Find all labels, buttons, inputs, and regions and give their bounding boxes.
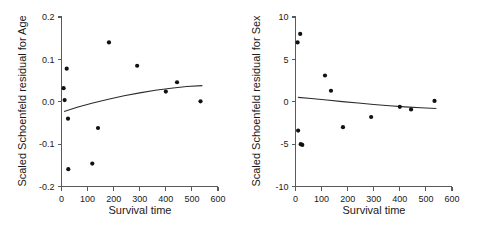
data-point — [409, 107, 413, 111]
y-tick-label: 0.2 — [42, 12, 55, 22]
x-tick-label: 400 — [158, 194, 173, 204]
data-point — [66, 167, 70, 171]
axes-age — [62, 17, 219, 187]
data-point — [323, 73, 327, 77]
data-point — [90, 162, 94, 166]
data-point — [329, 89, 333, 93]
y-tick-label: -0.2 — [39, 182, 55, 192]
data-point — [295, 40, 299, 44]
data-point — [63, 98, 67, 102]
x-tick-label: 300 — [132, 194, 147, 204]
ylabel-sex: Scaled Schoenfeld residual for Sex — [250, 15, 262, 187]
panel-sex: 0100200300400500600-10-50510 Survival ti… — [240, 0, 479, 235]
ticks-age — [58, 17, 219, 191]
xlabel-sex: Survival time — [343, 204, 406, 216]
y-tick-label: -10 — [275, 182, 288, 192]
data-point — [164, 89, 168, 93]
x-tick-label: 200 — [340, 194, 355, 204]
data-point — [96, 126, 100, 130]
x-tick-label: 200 — [106, 194, 121, 204]
y-tick-label: 0.0 — [42, 97, 55, 107]
x-tick-label: 600 — [444, 194, 459, 204]
tick-labels-age: 0100200300400500600-0.2-0.10.00.10.2 — [39, 12, 226, 203]
y-tick-label: -0.1 — [39, 139, 55, 149]
data-point — [61, 86, 65, 90]
x-tick-label: 400 — [392, 194, 407, 204]
axes-sex — [296, 17, 453, 187]
x-tick-label: 600 — [210, 194, 225, 204]
data-point — [432, 99, 436, 103]
y-tick-label: 10 — [278, 12, 288, 22]
data-point — [65, 67, 69, 71]
data-point — [66, 117, 70, 121]
data-point — [398, 105, 402, 109]
data-point — [198, 99, 202, 103]
data-point — [175, 80, 179, 84]
data-point — [300, 143, 304, 147]
panel-age: 0100200300400500600-0.2-0.10.00.10.2 Sur… — [0, 0, 239, 235]
y-tick-label: 0 — [283, 97, 288, 107]
data-point — [298, 32, 302, 36]
x-tick-label: 300 — [366, 194, 381, 204]
data-points-sex — [295, 32, 436, 147]
data-point — [135, 64, 139, 68]
x-tick-label: 100 — [314, 194, 329, 204]
y-tick-label: 0.1 — [42, 55, 55, 65]
y-tick-label: 5 — [283, 55, 288, 65]
plot-age: 0100200300400500600-0.2-0.10.00.10.2 Sur… — [0, 0, 239, 235]
fit-curve-age — [64, 86, 202, 112]
y-tick-label: -5 — [280, 139, 288, 149]
x-tick-label: 500 — [184, 194, 199, 204]
x-tick-label: 100 — [80, 194, 95, 204]
x-tick-label: 500 — [418, 194, 433, 204]
data-point — [341, 125, 345, 129]
data-point — [369, 115, 373, 119]
xlabel-age: Survival time — [109, 204, 172, 216]
data-point — [107, 40, 111, 44]
x-tick-label: 0 — [59, 194, 64, 204]
schoenfeld-residual-figure: 0100200300400500600-0.2-0.10.00.10.2 Sur… — [0, 0, 479, 235]
fit-curve-sex — [298, 97, 436, 108]
plot-sex: 0100200300400500600-10-50510 Survival ti… — [240, 0, 479, 235]
x-tick-label: 0 — [293, 194, 298, 204]
data-point — [296, 128, 300, 132]
ylabel-age: Scaled Schoenfeld residual for Age — [16, 15, 28, 186]
